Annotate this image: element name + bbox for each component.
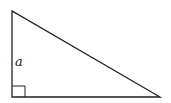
right-angle-marker <box>12 86 25 97</box>
triangle-diagram: a <box>0 0 171 103</box>
side-label-a: a <box>15 54 23 69</box>
right-triangle <box>12 11 160 97</box>
